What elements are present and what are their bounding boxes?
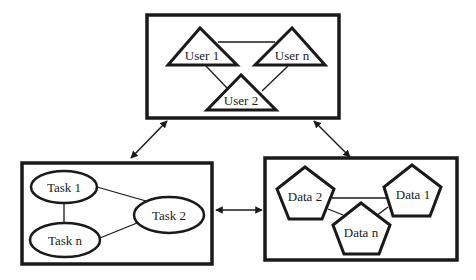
node-taskn: Task n: [30, 223, 100, 257]
node-label: Task 2: [152, 208, 186, 223]
node-usern: User n: [255, 28, 325, 65]
edge-taskn-task2: [100, 223, 137, 238]
diagram-canvas: User 1 User n User 2 Task 1 Task n Task …: [0, 0, 476, 280]
node-user1: User 1: [168, 28, 237, 65]
node-label: Data n: [344, 225, 379, 240]
edge-usern-user2: [262, 66, 288, 91]
node-label: Data 2: [288, 189, 322, 204]
link-users-tasks-arrow: [131, 121, 167, 158]
edge-data2-datan: [328, 209, 343, 215]
node-label: Task 1: [47, 180, 81, 195]
node-label: User 1: [185, 48, 219, 63]
node-task2: Task 2: [134, 197, 204, 233]
node-data1: Data 1: [384, 165, 441, 216]
node-user2: User 2: [207, 75, 276, 110]
node-data2: Data 2: [277, 167, 334, 219]
users-group: User 1 User n User 2: [147, 15, 339, 118]
node-task1: Task 1: [31, 171, 97, 203]
edge-task1-task2: [97, 187, 146, 201]
edge-user1-user2: [206, 66, 227, 88]
tasks-group: Task 1 Task n Task 2: [22, 163, 212, 264]
node-label: Task n: [48, 233, 83, 248]
link-users-data-arrow: [314, 121, 350, 157]
node-label: User 2: [224, 93, 258, 108]
node-datan: Data n: [333, 203, 390, 254]
node-label: Data 1: [396, 187, 430, 202]
data-group: Data 2 Data 1 Data n: [265, 158, 457, 260]
node-label: User n: [275, 48, 310, 63]
